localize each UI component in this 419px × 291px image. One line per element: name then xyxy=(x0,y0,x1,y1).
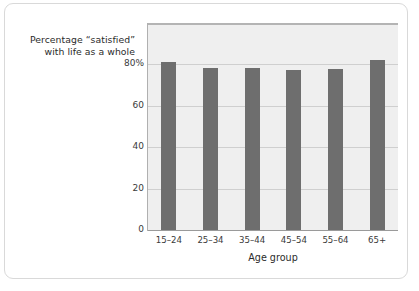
x-tick-label: 45–54 xyxy=(272,235,316,245)
y-tick-label: 80% xyxy=(100,58,144,68)
x-tick-label: 35–44 xyxy=(230,235,274,245)
x-tick-labels: 15–2425–3435–4445–5455–6465+ xyxy=(148,235,398,249)
y-tick-label: 0 xyxy=(100,224,144,234)
x-tick-label: 55–64 xyxy=(314,235,358,245)
bar xyxy=(245,68,260,230)
bar-series xyxy=(148,23,398,230)
bar xyxy=(370,60,385,230)
bar xyxy=(161,62,176,230)
x-tick-label: 25–34 xyxy=(189,235,233,245)
y-tick-labels: 020406080% xyxy=(100,4,144,291)
x-axis-title: Age group xyxy=(148,252,398,263)
figure-card: Percentage “satisfied” with life as a wh… xyxy=(4,3,408,279)
y-tick-label: 20 xyxy=(100,183,144,193)
x-tick-label: 15–24 xyxy=(147,235,191,245)
y-tick-label: 40 xyxy=(100,141,144,151)
bar xyxy=(328,69,343,230)
bar xyxy=(286,70,301,230)
y-tick-label: 60 xyxy=(100,100,144,110)
x-axis-line xyxy=(148,230,398,231)
bar xyxy=(203,68,218,230)
x-tick-label: 65+ xyxy=(355,235,399,245)
